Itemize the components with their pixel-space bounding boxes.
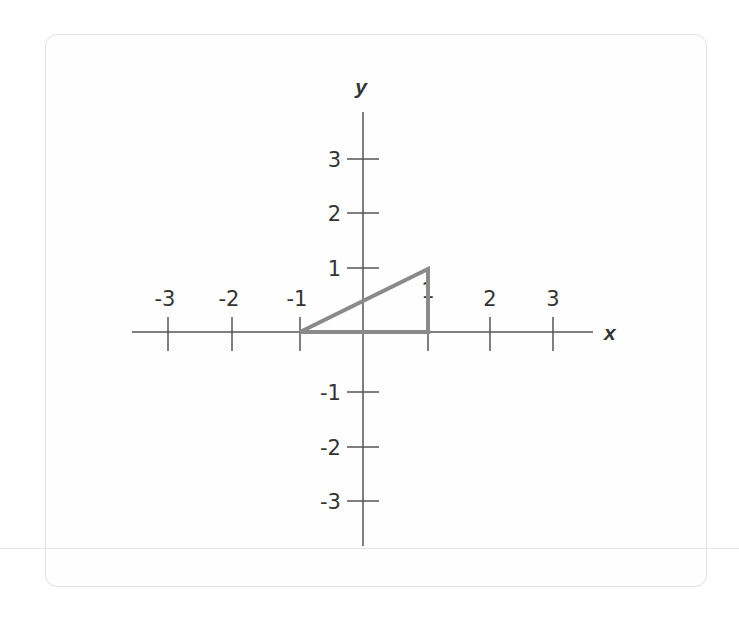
y-tick-label: 2	[328, 202, 341, 226]
y-tick-label: -3	[320, 490, 341, 514]
triangle-shape	[300, 269, 428, 332]
x-tick-label: -1	[287, 287, 308, 311]
x-tick-label: 2	[483, 287, 496, 311]
y-tick-label: 3	[328, 148, 341, 172]
y-tick-label: -1	[320, 381, 341, 405]
coordinate-plane: -3-2-1123 321-1-2-3 x y	[0, 0, 739, 622]
x-tick-label: -2	[219, 287, 240, 311]
y-tick-label: 1	[328, 257, 341, 281]
x-tick-label: 3	[546, 287, 559, 311]
x-axis-label: x	[603, 321, 617, 344]
y-tick-label: -2	[320, 436, 341, 460]
x-ticks: -3-2-1123	[155, 279, 560, 351]
y-axis-label: y	[354, 75, 368, 98]
x-tick-label: -3	[155, 287, 176, 311]
